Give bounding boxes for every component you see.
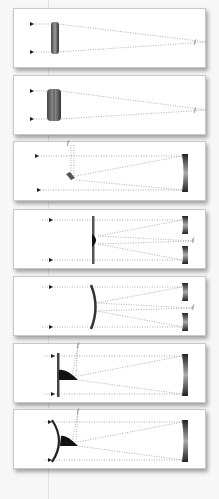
sct-diagram — [14, 210, 207, 270]
doublet-diagram — [14, 76, 207, 136]
arrow-icon — [30, 89, 34, 93]
newtonian-diagram — [14, 142, 207, 202]
panel-maksutov-cassegrain: f — [13, 276, 206, 336]
meniscus-corrector-icon — [91, 285, 96, 329]
arrow-icon — [30, 117, 34, 121]
primary-mirror-icon — [182, 154, 188, 192]
focus-label: f — [194, 107, 196, 113]
focus-label: f — [67, 140, 69, 146]
primary-mirror-top-icon — [182, 216, 188, 234]
mak-newt-diagram — [14, 410, 207, 470]
focus-label: f — [77, 408, 79, 414]
primary-mirror-icon — [182, 420, 188, 462]
primary-mirror-bottom-icon — [182, 246, 188, 264]
arrow-icon — [30, 50, 34, 54]
arrow-icon — [35, 154, 39, 158]
primary-mirror-bottom-icon — [182, 313, 188, 331]
focus-label: f — [194, 39, 196, 45]
arrow-icon — [51, 354, 55, 358]
focus-label: f — [192, 237, 194, 243]
refractor-diagram — [14, 9, 207, 69]
diagonal-mirror-icon — [59, 370, 78, 380]
panel-schmidt-newtonian: f — [13, 343, 206, 403]
arrow-icon — [51, 392, 55, 396]
arrow-icon — [49, 218, 53, 222]
arrow-icon — [49, 258, 53, 262]
arrow-icon — [37, 188, 41, 192]
primary-mirror-top-icon — [182, 283, 188, 301]
panel-newtonian: f — [13, 141, 206, 201]
panel-schmidt-cassegrain: f — [13, 209, 206, 269]
focus-label: f — [77, 342, 79, 348]
meniscus-corrector-icon — [52, 420, 59, 462]
panel-refractor-doublet: f — [13, 75, 206, 135]
panel-maksutov-newtonian: f — [13, 409, 206, 469]
panel-refractor-achromat: f — [13, 8, 206, 68]
arrow-icon — [30, 22, 34, 26]
mak-diagram — [14, 277, 207, 337]
arrow-icon — [49, 285, 53, 289]
focus-label: f — [192, 304, 194, 310]
lens-icon — [51, 22, 59, 54]
schmidt-newt-diagram — [14, 344, 207, 404]
diagonal-mirror-icon — [60, 436, 78, 446]
primary-mirror-icon — [182, 354, 188, 396]
arrow-icon — [49, 325, 53, 329]
